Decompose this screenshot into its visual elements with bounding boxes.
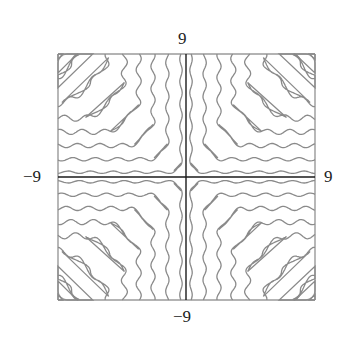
contour-line <box>58 54 182 173</box>
contour-line <box>279 266 315 300</box>
x-max-label: 9 <box>324 168 333 185</box>
contour-line <box>279 54 315 88</box>
x-min-label: −9 <box>23 168 41 185</box>
contour-line <box>190 181 315 300</box>
contour-line <box>245 233 315 300</box>
y-max-label: 9 <box>178 30 187 47</box>
contour-plot <box>0 0 362 338</box>
contour-line <box>58 233 127 300</box>
contour-line <box>58 181 182 300</box>
contour-line <box>309 54 315 59</box>
contour-line <box>309 295 315 300</box>
contour-line <box>58 54 127 121</box>
y-min-label: −9 <box>173 308 191 325</box>
contour-line <box>58 295 63 300</box>
contour-line <box>245 54 315 121</box>
contour-line <box>190 54 315 173</box>
contour-line <box>58 54 63 59</box>
